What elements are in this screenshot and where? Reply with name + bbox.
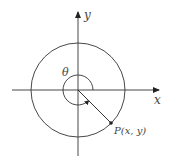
radius-ray [78,90,111,123]
y-axis-label: y [83,8,91,22]
point-label: P(x, y) [113,125,146,136]
x-axis-label: x [154,93,161,107]
unit-circle-diagram: y x θ P(x, y) [0,0,169,166]
theta-label: θ [62,66,69,79]
point-p [109,121,113,125]
